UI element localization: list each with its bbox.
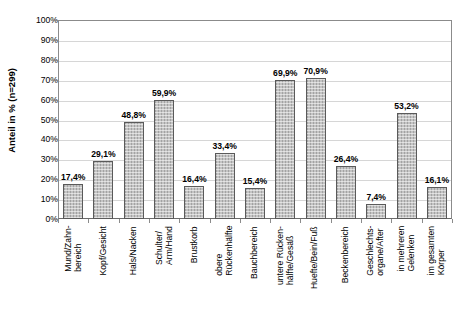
x-tick-mark	[240, 219, 241, 223]
y-tick-label: 40%	[24, 135, 58, 144]
bar-value-label: 26,4%	[334, 155, 358, 164]
x-tick-mark	[88, 219, 89, 223]
y-tick-label: 90%	[24, 35, 58, 44]
x-tick-mark	[391, 219, 392, 223]
bar[interactable]	[275, 80, 295, 219]
bar-value-label: 53,2%	[394, 102, 418, 111]
bar[interactable]	[306, 78, 326, 219]
y-tick-label: 100%	[24, 16, 58, 25]
x-axis-label: im gesamten Körper	[422, 224, 452, 318]
y-tick-label: 20%	[24, 175, 58, 184]
bar-chart: Anteil in % (n=299) 0%10%20%30%40%50%60%…	[0, 0, 467, 318]
bar-slot: 16,4%	[184, 20, 204, 219]
bar-value-label: 17,4%	[61, 173, 85, 182]
x-tick-mark	[300, 219, 301, 223]
bar[interactable]	[336, 166, 356, 219]
bar-value-label: 7,4%	[366, 193, 386, 202]
x-axis-label-text: untere Rücken- hälfte/Gesäß	[276, 226, 295, 285]
bar-value-label: 15,4%	[243, 177, 267, 186]
x-axis-label: Schulter/ Arm/Hand	[149, 224, 179, 318]
x-axis-label: Hals/Nacken	[119, 224, 149, 318]
bar-value-label: 48,8%	[122, 111, 146, 120]
bar-slot: 16,1%	[427, 20, 447, 219]
x-axis-label-text: Beckenbereich	[341, 226, 351, 283]
x-axis-label-text: Bauchbereich	[250, 226, 260, 279]
x-axis-label-text: Brustkorb	[190, 226, 200, 263]
y-tick-label: 50%	[24, 115, 58, 124]
x-axis-label: untere Rücken- hälfte/Gesäß	[270, 224, 300, 318]
bar[interactable]	[245, 188, 265, 219]
bar-value-label: 16,4%	[182, 175, 206, 184]
x-tick-mark	[452, 219, 453, 223]
bar-value-label: 69,9%	[273, 69, 297, 78]
x-axis-label: Mund/Zahn- bereich	[58, 224, 88, 318]
x-axis-label-text: Mund/Zahn- bereich	[64, 226, 83, 272]
x-tick-mark	[119, 219, 120, 223]
x-axis-label-text: obere Rückenhälfte	[215, 226, 234, 276]
x-axis-label: Beckenbereich	[331, 224, 361, 318]
bar-slot: 53,2%	[397, 20, 417, 219]
bar-value-label: 59,9%	[152, 89, 176, 98]
bar-slot: 70,9%	[306, 20, 326, 219]
x-tick-mark	[331, 219, 332, 223]
x-axis-label: in mehreren Gelenken	[391, 224, 421, 318]
y-axis-title-text: Anteil in % (n=299)	[6, 68, 17, 153]
bar[interactable]	[124, 122, 144, 219]
x-axis-label: Geschlechts- organe/After	[361, 224, 391, 318]
bar-slot: 33,4%	[215, 20, 235, 219]
y-tick-label: 30%	[24, 155, 58, 164]
y-tick-label: 60%	[24, 95, 58, 104]
x-tick-mark	[149, 219, 150, 223]
bar[interactable]	[366, 204, 386, 219]
bar-slot: 15,4%	[245, 20, 265, 219]
bar-value-label: 70,9%	[303, 67, 327, 76]
y-tick-label: 80%	[24, 55, 58, 64]
x-axis-label-text: Hals/Nacken	[129, 226, 139, 275]
x-axis-label: Huefte/Bein/Fuß	[300, 224, 330, 318]
x-tick-mark	[58, 219, 59, 223]
y-axis-ticks: 0%10%20%30%40%50%60%70%80%90%100%	[18, 20, 58, 219]
bar-value-label: 33,4%	[213, 142, 237, 151]
x-axis-label: Brustkorb	[179, 224, 209, 318]
bar-value-label: 16,1%	[425, 176, 449, 185]
bar-slot: 26,4%	[336, 20, 356, 219]
x-axis-label: obere Rückenhälfte	[210, 224, 240, 318]
bar-slot: 59,9%	[154, 20, 174, 219]
x-axis-label: Kopf/Gesicht	[88, 224, 118, 318]
y-tick-label: 0%	[24, 215, 58, 224]
bar[interactable]	[215, 153, 235, 219]
x-axis-label-text: im gesamten Körper	[427, 226, 446, 275]
bar[interactable]	[63, 184, 83, 219]
x-axis-label: Bauchbereich	[240, 224, 270, 318]
x-tick-mark	[179, 219, 180, 223]
y-tick-label: 10%	[24, 195, 58, 204]
bar-slot: 7,4%	[366, 20, 386, 219]
bar-slot: 29,1%	[93, 20, 113, 219]
x-tick-mark	[270, 219, 271, 223]
bar-slot: 69,9%	[275, 20, 295, 219]
bar[interactable]	[427, 187, 447, 219]
x-axis-label-text: Kopf/Gesicht	[99, 226, 109, 275]
x-tick-mark	[210, 219, 211, 223]
bar[interactable]	[154, 100, 174, 219]
x-axis-label-text: Geschlechts- organe/After	[367, 226, 386, 276]
x-axis-label-text: Huefte/Bein/Fuß	[311, 226, 321, 289]
bar[interactable]	[397, 113, 417, 219]
y-tick-label: 70%	[24, 75, 58, 84]
bar-value-label: 29,1%	[91, 150, 115, 159]
x-axis-labels: Mund/Zahn- bereichKopf/GesichtHals/Nacke…	[58, 224, 452, 318]
bar[interactable]	[93, 161, 113, 219]
bar[interactable]	[184, 186, 204, 219]
bar-slot: 48,8%	[124, 20, 144, 219]
x-tick-mark	[422, 219, 423, 223]
x-axis-label-text: Schulter/ Arm/Hand	[154, 226, 173, 265]
bars-layer: 17,4%29,1%48,8%59,9%16,4%33,4%15,4%69,9%…	[58, 20, 452, 219]
bar-slot: 17,4%	[63, 20, 83, 219]
x-tick-mark	[361, 219, 362, 223]
x-axis-label-text: in mehreren Gelenken	[397, 226, 416, 272]
